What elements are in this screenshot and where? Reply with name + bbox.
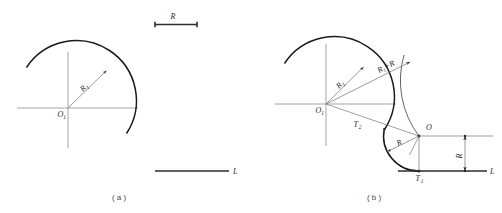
panel-b-r-label-group: R [394, 138, 403, 149]
panel-b-offset-dim-node-bottom [464, 170, 466, 172]
panel-b-tangent2-label-group: T 2 [354, 120, 362, 130]
panel-a-given-line-group: L [155, 167, 238, 176]
panel-a-caption: ( a ) [112, 193, 127, 202]
panel-a-center-label-sub: 1 [63, 114, 66, 120]
panel-b-fillet-arc [384, 129, 419, 171]
panel-a-radius-label-group: R 1 [77, 81, 91, 95]
panel-b-offset-dim-node-top [464, 135, 466, 137]
panel-a-given-radius-group: R [155, 12, 197, 27]
panel-b-center2-label: O [426, 123, 432, 132]
panel-b-caption: ( b ) [367, 193, 382, 202]
panel-a-center-label-group: O 1 [58, 110, 67, 120]
panel-b-tangent1-label-group: T 1 [416, 174, 424, 184]
panel-b-group: R 1 R₁+R R O 1 [275, 37, 495, 202]
panel-b-tangent2-label: T [354, 120, 359, 129]
panel-b-fillet-radius-label: R [394, 138, 403, 149]
panel-b-sum-radius-label: R₁+R [375, 59, 396, 76]
panel-a-given-line-label: L [232, 167, 238, 176]
panel-a-given-radius-label: R [170, 12, 176, 21]
panel-b-r-leader [388, 136, 420, 152]
technical-drawing-figure: R 1 O 1 R L ( a ) [0, 0, 502, 213]
panel-b-tangent1-label: T [416, 174, 421, 183]
panel-b-arc-r1-plus-r [400, 55, 419, 136]
panel-b-tangent2-label-sub: 2 [359, 124, 362, 130]
panel-b-base-line-label: L [489, 167, 495, 176]
panel-b-sum-label-group: R₁+R [375, 59, 396, 76]
figure-canvas: R 1 O 1 R L ( a ) [0, 0, 502, 213]
panel-b-tangent1-label-sub: 1 [421, 178, 424, 184]
panel-b-offset-dim-label: R [455, 153, 464, 159]
panel-b-tangent2-node [383, 128, 385, 130]
panel-b-r1-label-group: R 1 [333, 78, 347, 92]
panel-b-offset-dim-label-group: R [455, 153, 464, 159]
panel-b-center1-label-sub: 1 [321, 110, 324, 116]
panel-b-center1-label-group: O 1 [316, 106, 325, 116]
panel-b-offset-dimension-group: R [455, 135, 466, 172]
panel-a-group: R 1 O 1 R L ( a ) [17, 12, 238, 202]
panel-b-r-leader-tail [410, 136, 420, 155]
